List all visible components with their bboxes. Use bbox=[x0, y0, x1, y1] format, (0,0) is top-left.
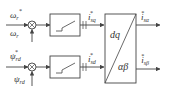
outputs: isα* isβ* bbox=[136, 10, 160, 69]
alphabeta-label: αβ bbox=[118, 61, 128, 72]
speed-fb-label: ωr bbox=[10, 28, 19, 39]
dq-alphabeta-transform-block: dq αβ bbox=[105, 14, 136, 83]
flux-sum-junction bbox=[28, 63, 36, 71]
flux-ref-label: ψrd* bbox=[10, 49, 22, 62]
speed-ref-label: ωr* bbox=[10, 8, 22, 21]
control-diagram: ωr* ωr isq* ψrd* ψrd bbox=[0, 0, 171, 100]
isalpha-label: isα* bbox=[141, 10, 150, 23]
flux-loop: ψrd* ψrd isd* bbox=[6, 49, 104, 86]
flux-controller-block bbox=[50, 56, 80, 78]
isbeta-label: isβ* bbox=[141, 53, 149, 66]
dq-label: dq bbox=[110, 29, 120, 40]
isd-label: isd* bbox=[88, 52, 97, 65]
speed-sum-junction bbox=[28, 21, 36, 29]
flux-fb-label: ψrd bbox=[14, 74, 26, 85]
speed-loop: ωr* ωr isq* bbox=[6, 8, 104, 42]
speed-controller-block bbox=[50, 14, 80, 36]
isq-label: isq* bbox=[88, 10, 96, 23]
